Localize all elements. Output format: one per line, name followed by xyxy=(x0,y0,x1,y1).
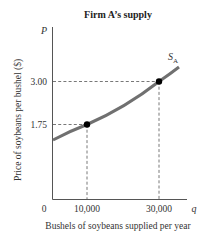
y-axis-symbol: P xyxy=(40,25,47,36)
x-tick-10000: 10,000 xyxy=(74,204,100,214)
y-axis-label: Price of soybeans per bushel ($) xyxy=(13,59,24,181)
point-10000-1-75 xyxy=(84,121,90,127)
x-tick-30000: 30,000 xyxy=(146,204,172,214)
supply-curve-label: SA xyxy=(168,51,178,65)
origin-label: 0 xyxy=(42,204,47,214)
guide-lines xyxy=(53,82,159,200)
x-axis-symbol: q xyxy=(192,203,197,214)
chart-root: Firm A’s supply Price of soybeans per bu… xyxy=(0,0,208,242)
point-30000-3-00 xyxy=(156,78,162,84)
supply-curve xyxy=(53,67,179,140)
y-tick-1-75: 1.75 xyxy=(30,120,47,130)
chart-title: Firm A’s supply xyxy=(84,9,152,20)
supply-label-sub: A xyxy=(173,57,178,65)
y-tick-3-00: 3.00 xyxy=(30,77,47,87)
x-axis-label: Bushels of soybeans supplied per year xyxy=(45,221,191,231)
